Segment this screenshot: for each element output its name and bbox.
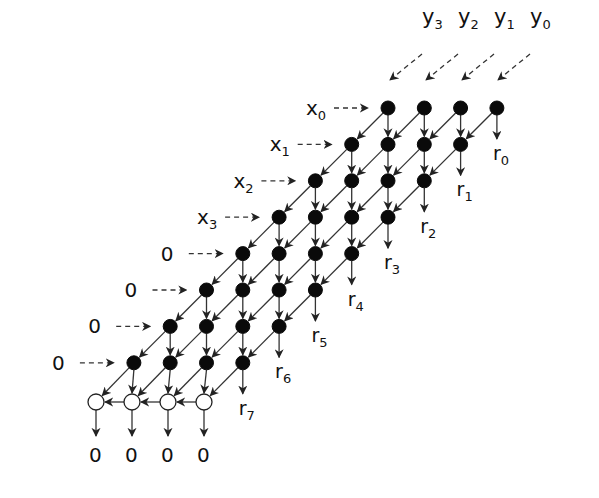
input-arrow-y <box>390 54 422 80</box>
processing-element <box>345 210 359 224</box>
diagonal-edge <box>285 186 311 212</box>
vertical-edge <box>132 370 134 393</box>
diagonal-edge <box>212 295 238 321</box>
diagonal-edge <box>248 259 274 285</box>
bottom-output-label: 0 <box>89 443 102 467</box>
diagonal-edge <box>321 186 347 212</box>
diagonal-edge <box>321 222 347 248</box>
input-label-left: x3 <box>197 205 217 232</box>
input-label-left: x2 <box>233 169 253 196</box>
processing-element <box>454 101 468 115</box>
input-label-left: x0 <box>306 96 326 123</box>
processing-element <box>236 247 250 261</box>
diagonal-edge <box>212 331 238 357</box>
output-label-r0: r0 <box>493 142 509 168</box>
output-label-r6: r6 <box>275 360 291 386</box>
input-label-left: 0 <box>161 242 174 266</box>
diagonal-edge <box>176 331 202 357</box>
diagonal-edge <box>357 186 383 212</box>
processing-element <box>163 319 177 333</box>
diagonal-edge <box>285 222 311 248</box>
input-label-left: 0 <box>88 314 101 338</box>
diagonal-edge <box>321 149 347 175</box>
processing-element <box>381 137 395 151</box>
processing-element <box>381 210 395 224</box>
systolic-array-diagram: r0r1r2r3r4r5r6r70000y3y2y1y0x0x1x2x30000 <box>0 0 599 498</box>
diagonal-edge <box>176 295 202 321</box>
diagonal-edge <box>248 295 274 321</box>
diagonal-edge <box>394 186 420 212</box>
diagonal-edge <box>285 259 311 285</box>
diagonal-edge <box>212 259 238 285</box>
processing-element <box>308 247 322 261</box>
processing-element <box>236 356 250 370</box>
input-label-y: y0 <box>530 5 551 32</box>
processing-element <box>272 210 286 224</box>
processing-element <box>163 356 177 370</box>
processing-element <box>417 174 431 188</box>
processing-element <box>381 101 395 115</box>
processing-element <box>490 101 504 115</box>
diagonal-edge <box>174 368 201 396</box>
processing-element <box>381 174 395 188</box>
processing-element <box>345 247 359 261</box>
input-label-y: y1 <box>494 5 515 32</box>
processing-element <box>345 174 359 188</box>
input-arrow-y <box>426 54 458 80</box>
output-label-r5: r5 <box>311 324 327 350</box>
input-label-left: 0 <box>125 278 138 302</box>
boundary-cell <box>196 394 212 410</box>
processing-element <box>417 137 431 151</box>
output-label-r2: r2 <box>420 215 436 241</box>
diagonal-edge <box>430 113 456 139</box>
output-label-r3: r3 <box>384 251 400 277</box>
output-label-r4: r4 <box>348 288 364 314</box>
processing-element <box>200 319 214 333</box>
input-label-left: 0 <box>52 351 65 375</box>
bottom-output-label: 0 <box>161 443 174 467</box>
diagonal-edge <box>248 222 274 248</box>
processing-element <box>236 283 250 297</box>
processing-element <box>345 137 359 151</box>
processing-element <box>272 247 286 261</box>
diagonal-edge <box>466 113 492 139</box>
input-label-left: x1 <box>270 132 290 159</box>
processing-element <box>236 319 250 333</box>
diagonal-edge <box>357 113 383 139</box>
nodes-layer <box>88 101 504 410</box>
diagonal-edge <box>394 113 420 139</box>
output-label-r1: r1 <box>457 178 473 204</box>
processing-element <box>272 319 286 333</box>
vertical-edge <box>204 370 207 393</box>
diagonal-edge <box>357 222 383 248</box>
input-label-y: y3 <box>422 5 443 32</box>
processing-element <box>127 356 141 370</box>
diagonal-edge <box>394 149 420 175</box>
bottom-output-label: 0 <box>125 443 138 467</box>
input-arrow-y <box>498 54 530 80</box>
diagonal-edge <box>102 368 129 396</box>
processing-element <box>417 101 431 115</box>
diagonal-edge <box>357 149 383 175</box>
input-label-y: y2 <box>458 5 479 32</box>
vertical-edge <box>168 370 170 393</box>
boundary-cell <box>88 394 104 410</box>
diagonal-edge <box>321 259 347 285</box>
processing-element <box>454 137 468 151</box>
diagonal-edge <box>430 149 456 175</box>
diagonal-edge <box>285 295 311 321</box>
output-label-r7: r7 <box>239 397 255 423</box>
diagonal-edge <box>248 331 274 357</box>
processing-element <box>272 283 286 297</box>
input-arrow-y <box>462 54 494 80</box>
processing-element <box>308 174 322 188</box>
boundary-cell <box>160 394 176 410</box>
diagonal-edge <box>210 368 238 396</box>
processing-element <box>200 283 214 297</box>
processing-element <box>308 283 322 297</box>
diagonal-edge <box>140 331 166 357</box>
diagonal-edge <box>138 368 165 396</box>
processing-element <box>200 356 214 370</box>
processing-element <box>308 210 322 224</box>
boundary-cell <box>124 394 140 410</box>
